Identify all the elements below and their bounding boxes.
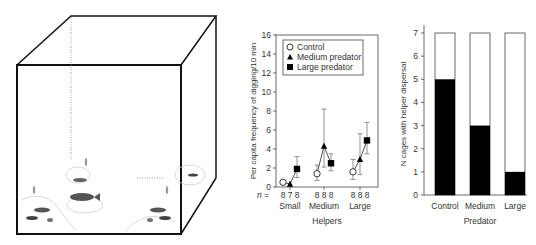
bar-dispersal bbox=[435, 79, 455, 195]
digging-chart-svg: 0246810121416Per capita frequency of dig… bbox=[240, 0, 385, 245]
y-tick-label: 8 bbox=[266, 106, 271, 116]
n-value: 8 bbox=[351, 190, 356, 200]
bar-dispersal bbox=[505, 172, 525, 195]
bar-dispersal bbox=[470, 126, 490, 195]
n-value: 8 bbox=[358, 190, 363, 200]
y-axis-label: N cages with helper dispersal bbox=[399, 62, 408, 167]
control-marker bbox=[350, 169, 356, 175]
x-axis-label: Predator bbox=[464, 216, 497, 226]
large-predator-marker bbox=[364, 137, 370, 143]
group-label: Small bbox=[279, 201, 300, 211]
y-tick-label: 4 bbox=[266, 144, 271, 154]
y-tick-label: 16 bbox=[262, 30, 272, 40]
group-label: Large bbox=[349, 201, 371, 211]
y-tick-label: 1 bbox=[413, 167, 418, 177]
y-tick-label: 7 bbox=[413, 28, 418, 38]
y-axis-label: Per capita frequency of digging/10 min bbox=[249, 43, 258, 180]
shelter-drawings bbox=[21, 165, 205, 232]
category-label: Medium bbox=[465, 201, 495, 211]
large-predator-marker bbox=[328, 160, 334, 166]
y-tick-label: 12 bbox=[262, 68, 272, 78]
n-label: n = bbox=[257, 190, 269, 200]
dispersal-chart-svg: 01234567N cages with helper dispersalCon… bbox=[385, 0, 536, 245]
y-tick-label: 0 bbox=[413, 190, 418, 200]
legend-entry: Control bbox=[297, 42, 325, 52]
large-predator-marker bbox=[294, 166, 300, 172]
x-axis-label: Helpers bbox=[312, 216, 341, 226]
y-tick-label: 6 bbox=[266, 125, 271, 135]
y-tick-label: 3 bbox=[413, 121, 418, 131]
n-value: 8 bbox=[315, 190, 320, 200]
control-marker bbox=[314, 171, 320, 177]
y-tick-label: 6 bbox=[413, 51, 418, 61]
y-tick-label: 10 bbox=[262, 87, 272, 97]
n-value: 8 bbox=[295, 190, 300, 200]
medium-predator-marker bbox=[321, 143, 327, 149]
fish-drawings bbox=[26, 158, 198, 222]
n-value: 8 bbox=[281, 190, 286, 200]
y-tick-label: 14 bbox=[262, 49, 272, 59]
legend-entry: Large predator bbox=[297, 62, 353, 72]
helper-dispersal-chart: 01234567N cages with helper dispersalCon… bbox=[385, 0, 536, 245]
n-value: 7 bbox=[288, 190, 293, 200]
legend-entry: Medium predator bbox=[297, 52, 361, 62]
n-value: 8 bbox=[322, 190, 327, 200]
cage-drawing bbox=[0, 0, 240, 245]
category-label: Control bbox=[431, 201, 459, 211]
y-tick-label: 4 bbox=[413, 97, 418, 107]
bar-total bbox=[505, 33, 525, 195]
n-value: 8 bbox=[329, 190, 334, 200]
n-value: 8 bbox=[365, 190, 370, 200]
medium-predator-marker bbox=[357, 156, 363, 162]
category-label: Large bbox=[504, 201, 526, 211]
y-tick-label: 2 bbox=[413, 144, 418, 154]
digging-frequency-chart: 0246810121416Per capita frequency of dig… bbox=[240, 0, 385, 245]
legend: ControlMedium predatorLarge predator bbox=[283, 40, 363, 75]
group-label: Medium bbox=[309, 201, 339, 211]
control-marker bbox=[280, 179, 286, 185]
y-tick-label: 5 bbox=[413, 74, 418, 84]
cage-illustration-panel bbox=[0, 0, 240, 245]
y-tick-label: 2 bbox=[266, 163, 271, 173]
